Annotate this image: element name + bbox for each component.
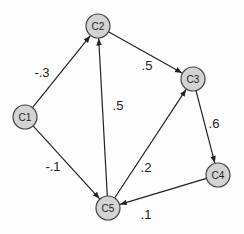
causal-graph-diagram: -.3-.1.5.5.2.6.1 C1C2C3C4C5 — [0, 0, 244, 234]
graph-svg: -.3-.1.5.5.2.6.1 C1C2C3C4C5 — [0, 0, 244, 234]
node-label: C2 — [92, 21, 105, 32]
edge-c4-to-c5 — [120, 178, 207, 204]
edge-weight-label: -.1 — [45, 159, 60, 174]
node-c3: C3 — [181, 67, 205, 91]
node-c2: C2 — [86, 14, 110, 38]
node-c4: C4 — [206, 163, 230, 187]
edge-weight-label: .1 — [141, 207, 152, 222]
nodes-layer: C1C2C3C4C5 — [13, 14, 230, 220]
edges-layer — [33, 32, 215, 205]
edge-weight-label: -.3 — [34, 65, 49, 80]
edge-c5-to-c3 — [115, 89, 187, 198]
edge-weight-label: .5 — [142, 58, 153, 73]
edge-weight-label: .2 — [141, 160, 152, 175]
edge-weight-label: .5 — [113, 98, 124, 113]
edge-c1-to-c5 — [33, 126, 100, 199]
edge-c5-to-c2 — [99, 39, 108, 197]
node-c5: C5 — [96, 196, 120, 220]
node-label: C5 — [102, 203, 115, 214]
node-c1: C1 — [13, 105, 37, 129]
node-label: C4 — [212, 170, 225, 181]
edge-weight-label: .6 — [209, 116, 220, 131]
node-label: C1 — [19, 112, 32, 123]
node-label: C3 — [187, 74, 200, 85]
